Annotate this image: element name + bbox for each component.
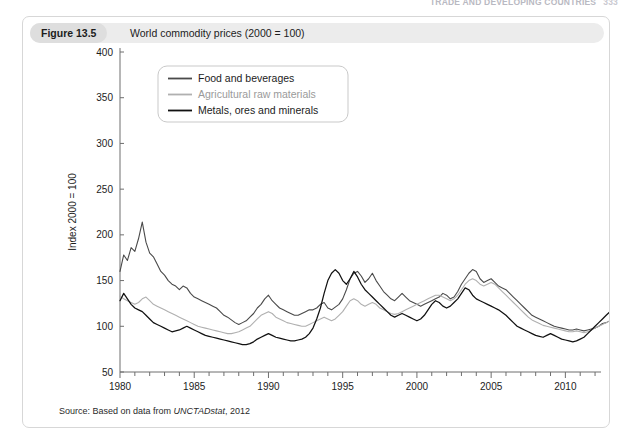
y-axis: 50100150200250300350400 <box>96 47 124 378</box>
commodity-price-line-chart: 50100150200250300350400 1980198519901995… <box>23 43 609 403</box>
legend-label: Metals, ores and minerals <box>198 104 318 116</box>
y-tick-label: 350 <box>96 92 113 103</box>
figure-card: Figure 13.5 World commodity prices (2000… <box>22 16 610 428</box>
y-tick-label: 50 <box>102 367 114 378</box>
running-header-title: TRADE AND DEVELOPING COUNTRIES <box>430 0 596 7</box>
source-suffix: , 2012 <box>225 406 250 416</box>
x-tick-label: 2000 <box>406 381 429 392</box>
figure-number-chip: Figure 13.5 <box>30 23 107 43</box>
figure-caption-bar: Figure 13.5 World commodity prices (2000… <box>30 23 604 43</box>
y-tick-label: 200 <box>96 229 113 240</box>
y-tick-label: 300 <box>96 138 113 149</box>
y-tick-label: 250 <box>96 184 113 195</box>
legend-label: Food and beverages <box>198 72 294 84</box>
source-prefix: Source: Based on data from <box>59 406 174 416</box>
x-tick-label: 1995 <box>332 381 355 392</box>
running-header: TRADE AND DEVELOPING COUNTRIES333 <box>0 0 632 11</box>
chart-plot-area: 50100150200250300350400 1980198519901995… <box>23 43 609 403</box>
chart-legend: Food and beveragesAgricultural raw mater… <box>158 66 348 122</box>
x-tick-label: 2010 <box>554 381 577 392</box>
x-tick-label: 1990 <box>257 381 280 392</box>
y-axis-title: Index 2000 = 100 <box>67 173 78 251</box>
y-tick-label: 400 <box>96 47 113 58</box>
x-tick-label: 1980 <box>109 381 132 392</box>
legend-label: Agricultural raw materials <box>198 88 316 100</box>
page-number: 333 <box>603 0 618 7</box>
y-tick-label: 150 <box>96 275 113 286</box>
source-note: Source: Based on data from UNCTADstat, 2… <box>59 406 250 416</box>
source-publication: UNCTADstat <box>174 406 225 416</box>
x-axis: 1980198519901995200020052010 <box>109 372 601 392</box>
running-header-inner: TRADE AND DEVELOPING COUNTRIES333 <box>430 0 618 7</box>
x-tick-label: 1985 <box>183 381 206 392</box>
y-tick-label: 100 <box>96 321 113 332</box>
series-line <box>120 138 609 334</box>
y-axis-label-text: Index 2000 = 100 <box>67 173 78 251</box>
figure-caption-text: World commodity prices (2000 = 100) <box>130 23 305 43</box>
x-tick-label: 2005 <box>480 381 503 392</box>
